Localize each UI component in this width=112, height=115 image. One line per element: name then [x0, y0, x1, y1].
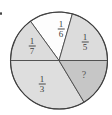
fraction-numerator: 1 [29, 38, 36, 46]
slice-label-one-third: 1 3 [39, 76, 46, 93]
slice-label-unknown: ? [82, 69, 86, 80]
slice-label-one-fifth: 1 5 [82, 34, 89, 51]
slice-label-one-seventh: 1 7 [29, 38, 36, 55]
fraction-numerator: 1 [39, 76, 46, 84]
slice-label-one-sixth: 1 6 [58, 21, 65, 38]
fraction-circle-figure: 1 6 1 5 1 7 1 3 ? [0, 0, 112, 115]
fraction-denominator: 6 [58, 29, 65, 38]
fraction-numerator: 1 [82, 34, 89, 42]
pie-chart [0, 0, 112, 115]
fraction-numerator: 1 [58, 21, 65, 29]
fraction-denominator: 5 [82, 42, 89, 51]
fraction-denominator: 7 [29, 46, 36, 55]
fraction-denominator: 3 [39, 84, 46, 93]
